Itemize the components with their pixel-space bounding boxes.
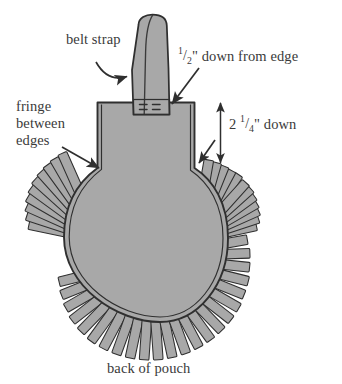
fraction-one-quarter: 1/4 [240,115,254,132]
label-fringe-line1: fringe [16,98,65,115]
label-two-quarter-suffix: " down [254,116,296,132]
fraction-denominator: 2 [187,55,192,66]
label-belt-strap: belt strap [66,31,121,48]
label-two-and-quarter-down: 2 1/4" down [229,116,296,133]
half-inch-arrow [172,68,199,104]
belt-strap-arrow [96,62,127,78]
pouch-body [64,103,228,323]
label-fringe-line3: edges [16,132,65,149]
label-two-whole: 2 [229,116,236,132]
label-half-inch-suffix: " down from edge [192,48,298,64]
figure-caption: back of pouch [107,360,190,377]
label-fringe-between-edges: fringe between edges [16,98,65,149]
pouch-diagram: belt strap 1/2" down from edge fringe be… [0,0,342,384]
label-half-inch-down-from-edge: 1/2" down from edge [178,48,298,65]
label-fringe-line2: between [16,115,65,132]
fraction-one-half: 1/2 [178,47,192,64]
fraction-denominator: 4 [249,123,254,134]
